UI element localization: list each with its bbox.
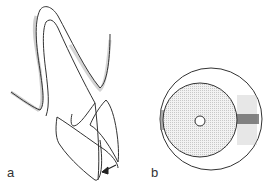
panel-label-a: a bbox=[7, 165, 14, 180]
panel-b-circles bbox=[160, 68, 262, 170]
figure: a b bbox=[0, 0, 269, 188]
figure-drawing bbox=[0, 0, 269, 188]
panel-a-tooth bbox=[11, 7, 119, 181]
panel-label-b: b bbox=[151, 165, 158, 180]
